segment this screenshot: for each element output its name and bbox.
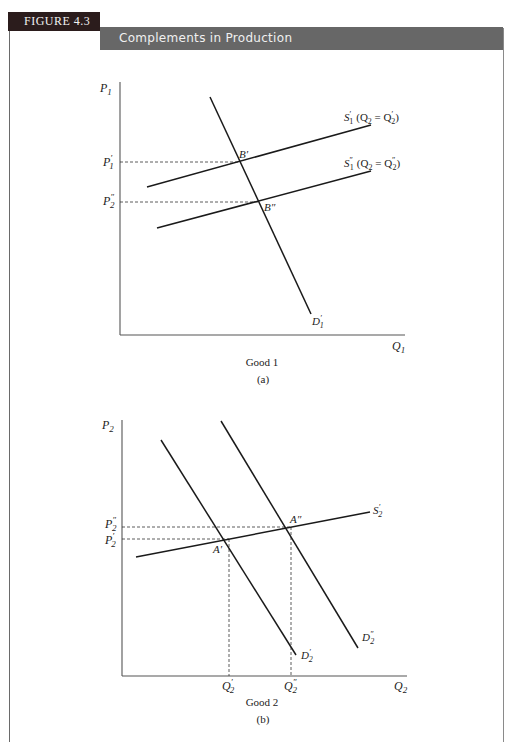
panel-a-point-b-prime: B′ xyxy=(239,148,249,160)
panel-b-panel-label: (b) xyxy=(257,713,270,726)
panel-b-demand-d2-prime-label: D′2 xyxy=(300,648,313,664)
panel-b-x-axis-label: Q2 xyxy=(394,679,408,695)
panel-b-demand-d2-double-prime xyxy=(221,421,358,648)
panel-a-good-label: Good 1 xyxy=(246,356,279,368)
figure-graphics: P1 P′1 P″2 B′ B″ S′1(Q2 = Q′2) S″1(Q2 = … xyxy=(0,0,511,742)
panel-b-point-a-prime: A′ xyxy=(212,543,223,555)
panel-b-good-label: Good 2 xyxy=(246,696,279,708)
panel-b: P2 P″2 P′2 A′ A″ S′2 D′2 D″2 Q′2 Q″2 Q2 … xyxy=(101,418,408,726)
panel-a-x-axis-label: Q1 xyxy=(392,339,405,355)
panel-b-tick-q2-prime: Q′2 xyxy=(222,677,235,695)
panel-a-tick-p1-prime: P′1 xyxy=(102,153,114,171)
panel-a-demand-d1-prime xyxy=(210,97,311,314)
panel-a-supply-s1-double-prime xyxy=(157,171,371,228)
panel-b-tick-p2-prime: P′2 xyxy=(104,531,116,549)
panel-b-supply-s2-prime xyxy=(136,512,370,557)
panel-a-point-b-double-prime: B″ xyxy=(264,201,276,213)
panel-a-supply-s1-prime-label: S′1(Q2 = Q′2) xyxy=(344,110,399,126)
panel-b-tick-q2-double-prime: Q″2 xyxy=(284,677,297,695)
panel-b-point-a-double-prime: A″ xyxy=(289,513,302,525)
panel-a-tick-p2-double-prime: P″2 xyxy=(102,192,115,210)
panel-b-demand-d2-double-prime-label: D″2 xyxy=(361,630,374,646)
panel-a-y-axis-label: P1 xyxy=(99,81,112,97)
panel-a-panel-label: (a) xyxy=(257,373,270,386)
panel-a-supply-s1-prime xyxy=(147,125,371,187)
panel-a-demand-d1-prime-label: D′1 xyxy=(311,314,324,330)
panel-b-tick-p2-double-prime: P″2 xyxy=(104,515,117,533)
panel-b-demand-d2-prime xyxy=(161,440,296,655)
panel-a: P1 P′1 P″2 B′ B″ S′1(Q2 = Q′2) S″1(Q2 = … xyxy=(99,81,405,386)
panel-b-y-axis-label: P2 xyxy=(101,418,114,434)
panel-b-supply-s2-prime-label: S′2 xyxy=(373,503,382,519)
panel-a-supply-s1-double-prime-label: S″1(Q2 = Q″2) xyxy=(344,156,400,172)
